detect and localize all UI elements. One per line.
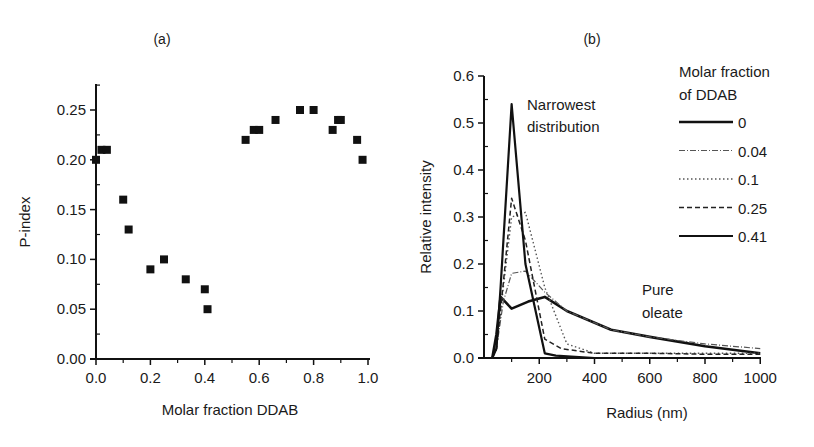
data-point-marker	[146, 265, 154, 273]
x-tick-label: 0.0	[86, 369, 107, 386]
panel-b-y-ticks: 0.00.10.20.30.40.50.6	[453, 67, 488, 366]
data-point-marker	[329, 126, 337, 134]
legend-label: 0.25	[738, 200, 767, 217]
panel-a-title: (a)	[153, 31, 170, 47]
y-tick-label: 0.1	[453, 302, 474, 319]
series-line-0-41	[492, 104, 760, 358]
y-tick-label: 0.0	[453, 349, 474, 366]
data-point-marker	[103, 146, 111, 154]
panel-b-x-label: Radius (nm)	[606, 404, 688, 421]
data-point-marker	[125, 226, 133, 234]
series-line-0-04	[492, 271, 760, 358]
y-tick-label: 0.10	[57, 250, 86, 267]
panel-a: (a) 0.000.050.100.150.200.25 0.00.20.40.…	[16, 31, 378, 418]
panel-b-y-label: Relative intensity	[417, 160, 434, 274]
series-line-0-25	[492, 198, 760, 358]
x-tick-label: 600	[637, 369, 662, 386]
panel-b-legend: Molar fractionof DDAB00.040.10.250.41	[679, 63, 770, 245]
panel-b-annotations: NarrowestdistributionPureoleate	[527, 96, 683, 321]
panel-a-y-label: P-index	[16, 196, 33, 247]
figure: (a) 0.000.050.100.150.200.25 0.00.20.40.…	[0, 0, 814, 447]
y-tick-label: 0.15	[57, 201, 86, 218]
data-point-marker	[182, 275, 190, 283]
data-point-marker	[272, 116, 280, 124]
x-tick-label: 400	[582, 369, 607, 386]
y-tick-label: 0.6	[453, 67, 474, 84]
panel-a-data-points	[92, 106, 367, 313]
x-tick-label: 800	[692, 369, 717, 386]
x-tick-label: 0.6	[249, 369, 270, 386]
data-point-marker	[353, 136, 361, 144]
data-point-marker	[204, 305, 212, 313]
data-point-marker	[160, 255, 168, 263]
data-point-marker	[337, 116, 345, 124]
annotation-pure-oleate: oleate	[642, 304, 683, 321]
legend-label: 0.41	[738, 228, 767, 245]
panel-a-x-label: Molar fraction DDAB	[162, 401, 299, 418]
x-tick-label: 0.2	[140, 369, 161, 386]
data-point-marker	[359, 156, 367, 164]
annotation-pure-oleate: Pure	[642, 281, 674, 298]
panel-b-x-ticks: 2004006008001000	[512, 358, 777, 386]
series-line-0-1	[492, 212, 760, 358]
x-tick-label: 0.8	[303, 369, 324, 386]
y-tick-label: 0.4	[453, 161, 474, 178]
y-tick-label: 0.3	[453, 208, 474, 225]
legend-label: 0	[738, 114, 746, 131]
panel-a-y-ticks: 0.000.050.100.150.200.25	[57, 85, 100, 367]
y-tick-label: 0.05	[57, 300, 86, 317]
data-point-marker	[242, 136, 250, 144]
x-tick-label: 1000	[744, 369, 777, 386]
data-point-marker	[296, 106, 304, 114]
data-point-marker	[119, 196, 127, 204]
legend-title: of DDAB	[679, 86, 737, 103]
data-point-marker	[92, 156, 100, 164]
legend-label: 0.04	[738, 143, 767, 160]
data-point-marker	[255, 126, 263, 134]
panel-b-series-lines	[492, 104, 760, 358]
legend-label: 0.1	[738, 171, 759, 188]
y-tick-label: 0.5	[453, 114, 474, 131]
annotation-narrowest-distribution: distribution	[527, 118, 600, 135]
annotation-narrowest-distribution: Narrowest	[527, 96, 596, 113]
panel-b: (b) 0.00.10.20.30.40.50.6 20040060080010…	[417, 31, 777, 421]
x-tick-label: 200	[527, 369, 552, 386]
legend-title: Molar fraction	[679, 63, 770, 80]
x-tick-label: 1.0	[358, 369, 379, 386]
series-line-0	[492, 297, 760, 358]
panel-a-x-ticks: 0.00.20.40.60.81.0	[86, 359, 379, 386]
y-tick-label: 0.2	[453, 255, 474, 272]
panel-b-title: (b)	[583, 31, 600, 47]
y-tick-label: 0.25	[57, 101, 86, 118]
x-tick-label: 0.4	[194, 369, 215, 386]
y-tick-label: 0.20	[57, 151, 86, 168]
y-tick-label: 0.00	[57, 350, 86, 367]
data-point-marker	[201, 285, 209, 293]
data-point-marker	[310, 106, 318, 114]
